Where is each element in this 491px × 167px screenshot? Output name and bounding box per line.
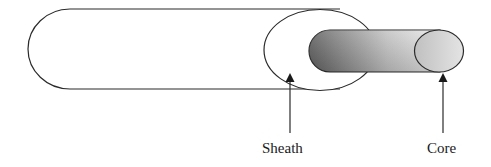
sheath-core-diagram: [0, 0, 491, 167]
sheath-label: Sheath: [262, 140, 303, 157]
core-end-ellipse: [415, 30, 464, 72]
sheath-arrow-icon: [286, 73, 295, 133]
core-arrow-icon: [439, 73, 448, 133]
core-label: Core: [427, 140, 456, 157]
